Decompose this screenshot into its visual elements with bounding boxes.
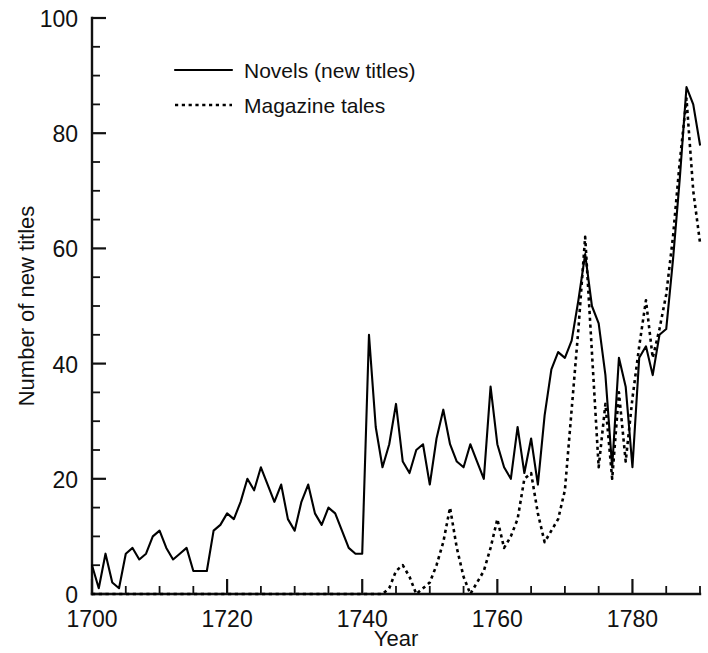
line-chart: 020406080100 17001720174017601780 Year N… [0,0,708,653]
legend-label-magazine-tales: Magazine tales [244,94,385,117]
series-lines [92,87,700,594]
y-tick-label: 100 [40,6,78,32]
y-tick-label: 40 [52,352,78,378]
x-tick-label: 1780 [607,606,658,632]
y-tick-label: 80 [52,121,78,147]
x-tick-label: 1760 [472,606,523,632]
y-tick-label: 0 [65,582,78,608]
y-axis-title: Number of new titles [14,206,39,407]
x-axis-title: Year [374,626,418,651]
y-tick-label: 20 [52,467,78,493]
series-line-magazine-tales [92,99,700,594]
legend-label-novels: Novels (new titles) [244,59,416,82]
x-axis-ticks [92,579,700,594]
chart-figure: 020406080100 17001720174017601780 Year N… [0,0,708,653]
series-line-novels-new-titles [92,87,700,588]
y-tick-label: 60 [52,236,78,262]
x-tick-label: 1720 [202,606,253,632]
x-axis-tick-labels: 17001720174017601780 [66,606,658,632]
x-tick-label: 1700 [66,606,117,632]
y-axis-tick-labels: 020406080100 [40,6,78,608]
legend: Novels (new titles) Magazine tales [175,59,416,117]
y-axis-ticks [92,18,106,594]
